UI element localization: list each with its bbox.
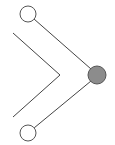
edge-top-to-merge (34, 19, 91, 69)
edge-bottom-to-merge (34, 81, 91, 128)
node-merge (88, 66, 106, 84)
merge-diagram (0, 0, 115, 145)
node-top (20, 6, 36, 22)
chevron-right-icon (13, 33, 60, 117)
node-bottom (20, 125, 36, 141)
